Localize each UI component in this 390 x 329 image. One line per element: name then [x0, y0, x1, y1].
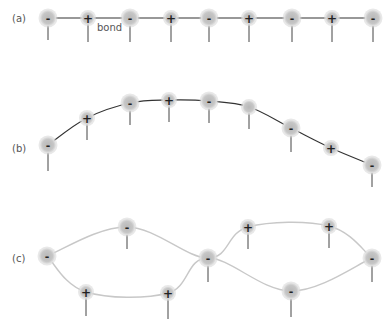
- anion-atom: -: [282, 282, 301, 301]
- anion-atom: -: [283, 9, 302, 28]
- panel-a: (a) bond -+-+-+-+-: [12, 9, 383, 43]
- panel-c: (c) ---++-++-: [12, 218, 382, 320]
- anion-atom: -: [364, 9, 383, 28]
- cation-atom: +: [79, 110, 95, 126]
- minus-sign-icon: -: [371, 12, 376, 25]
- minus-sign-icon: -: [289, 285, 294, 298]
- minus-sign-icon: -: [290, 12, 295, 25]
- anion-atom: -: [282, 119, 301, 138]
- cation-atom: +: [323, 140, 339, 156]
- minus-sign-icon: -: [46, 139, 51, 152]
- plus-sign-icon: +: [82, 112, 92, 126]
- minus-sign-icon: -: [370, 159, 375, 172]
- cation-atom: +: [163, 10, 179, 26]
- cation-atom: +: [161, 92, 177, 108]
- panel-b: (b) -+-+--+-: [12, 92, 382, 188]
- panel-label-a: (a): [12, 13, 26, 24]
- plus-sign-icon: +: [244, 12, 254, 26]
- minus-sign-icon: -: [289, 122, 294, 135]
- plus-sign-icon: +: [164, 94, 174, 108]
- anion-atom: -: [38, 247, 57, 266]
- minus-sign-icon: -: [128, 12, 133, 25]
- plus-sign-icon: +: [163, 287, 173, 301]
- minus-sign-icon: -: [45, 250, 50, 263]
- plus-sign-icon: +: [83, 12, 93, 26]
- minus-sign-icon: -: [128, 97, 133, 110]
- chain-c: ---++-++-: [38, 218, 382, 320]
- plus-sign-icon: +: [81, 286, 91, 300]
- cation-atom: +: [241, 10, 257, 26]
- anion-atom: -: [200, 92, 219, 111]
- minus-sign-icon: -: [125, 221, 130, 234]
- minus-sign-icon: -: [46, 12, 51, 25]
- cation-atom: +: [78, 284, 94, 300]
- anion-atom: -: [199, 249, 218, 268]
- cation-atom: +: [324, 10, 340, 26]
- anion-atom: -: [121, 94, 140, 113]
- plus-sign-icon: +: [326, 142, 336, 156]
- minus-sign-icon: -: [207, 95, 212, 108]
- anion-atom: -: [118, 218, 137, 237]
- panel-label-c: (c): [12, 253, 25, 264]
- chain-a: -+-+-+-+-: [39, 9, 383, 43]
- plus-sign-icon: +: [166, 12, 176, 26]
- bond-label: bond: [97, 22, 122, 33]
- chain-b: -+-+--+-: [39, 92, 382, 188]
- cation-atom: +: [321, 218, 337, 234]
- anion-atom: -: [363, 156, 382, 175]
- anion-atom: -: [39, 9, 58, 28]
- minus-sign-icon: -: [206, 252, 211, 265]
- plus-sign-icon: +: [324, 220, 334, 234]
- neutral-atom: [241, 99, 257, 115]
- plus-sign-icon: +: [243, 221, 253, 235]
- anion-atom: -: [363, 249, 382, 268]
- cation-atom: +: [160, 285, 176, 301]
- anion-atom: -: [200, 9, 219, 28]
- anion-atom: -: [121, 9, 140, 28]
- minus-sign-icon: -: [370, 252, 375, 265]
- plus-sign-icon: +: [327, 12, 337, 26]
- anion-atom: -: [39, 136, 58, 155]
- panel-label-b: (b): [12, 143, 26, 154]
- cation-atom: +: [240, 219, 256, 235]
- vibration-mode-diagram: (a) bond -+-+-+-+- (b) -+-+--+- (c) ---+…: [0, 0, 390, 329]
- cation-atom: +: [80, 10, 96, 26]
- minus-sign-icon: -: [207, 12, 212, 25]
